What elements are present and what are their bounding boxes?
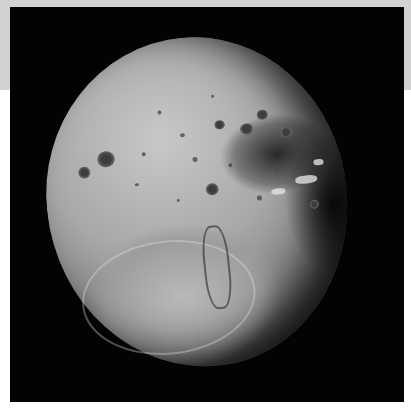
bright-patch bbox=[295, 174, 318, 184]
crater-speck bbox=[157, 110, 161, 114]
crater-speck bbox=[274, 168, 278, 172]
moon-body bbox=[31, 22, 364, 382]
crater-speck bbox=[180, 133, 185, 138]
crater bbox=[280, 127, 293, 138]
crater-speck bbox=[142, 152, 146, 156]
crater-speck bbox=[228, 163, 232, 167]
bright-patch bbox=[271, 188, 286, 195]
crater-speck bbox=[192, 157, 197, 162]
crater bbox=[214, 120, 226, 130]
crater-speck bbox=[211, 95, 214, 98]
crater bbox=[256, 109, 269, 120]
crater bbox=[78, 166, 91, 179]
crater-speck bbox=[177, 199, 180, 202]
crater bbox=[205, 183, 219, 196]
crater-speck bbox=[257, 195, 262, 200]
crater-speck bbox=[135, 183, 139, 186]
crater bbox=[96, 150, 116, 168]
large-basin-rim bbox=[76, 232, 261, 364]
crater bbox=[239, 123, 254, 135]
photo-panel bbox=[10, 7, 404, 402]
bright-patch bbox=[313, 159, 324, 166]
crater bbox=[309, 199, 319, 209]
